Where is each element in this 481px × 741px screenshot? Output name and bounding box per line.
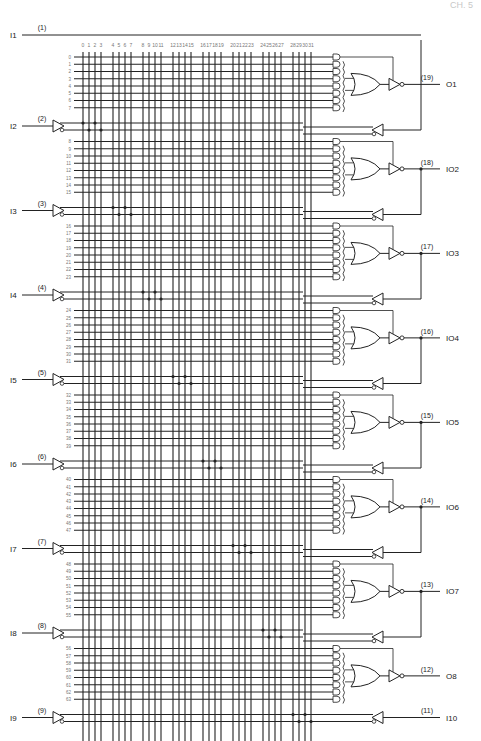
and-gate-icon xyxy=(333,337,340,343)
and-gate-icon xyxy=(333,421,340,427)
and-gate-icon xyxy=(333,520,340,526)
column-label: 0 xyxy=(82,42,85,48)
junction-dot xyxy=(291,713,294,716)
row-label: 39 xyxy=(66,444,72,449)
and-gate-icon xyxy=(333,351,340,357)
and-gate-icon xyxy=(333,308,340,314)
junction-dot xyxy=(249,551,252,554)
column-label: 30 xyxy=(302,42,308,48)
and-gate-icon xyxy=(333,399,340,405)
column-label: 29 xyxy=(296,42,302,48)
pin-number: (3) xyxy=(38,200,47,208)
row-label: 40 xyxy=(66,477,72,482)
pin-number: (7) xyxy=(38,538,47,546)
inversion-bubble-icon xyxy=(60,720,64,724)
or-input-bundle xyxy=(343,399,345,450)
row-label: 9 xyxy=(68,147,71,152)
input-pin-label: I6 xyxy=(10,460,17,469)
row-label: 57 xyxy=(66,654,72,659)
or-input-bundle xyxy=(343,653,345,704)
and-gate-icon xyxy=(333,682,340,688)
and-gate-icon xyxy=(333,252,340,258)
row-label: 61 xyxy=(66,683,72,688)
row-label: 20 xyxy=(66,253,72,258)
and-gate-icon xyxy=(333,223,340,229)
row-label: 18 xyxy=(66,238,72,243)
row-label: 22 xyxy=(66,267,72,272)
row-label: 41 xyxy=(66,485,72,490)
and-gate-icon xyxy=(333,61,340,67)
row-label: 21 xyxy=(66,260,72,265)
and-gate-icon xyxy=(333,414,340,420)
pin-number: (12) xyxy=(421,666,433,674)
pin-number: (6) xyxy=(38,453,47,461)
junction-dot xyxy=(147,297,150,300)
or-input-bundle xyxy=(343,315,345,366)
row-label: 2 xyxy=(68,69,71,74)
pin-number: (4) xyxy=(38,284,47,292)
pin-number: (18) xyxy=(421,159,433,167)
junction-dot xyxy=(159,297,162,300)
row-label: 1 xyxy=(68,62,71,67)
row-label: 44 xyxy=(66,506,72,511)
junction-dot xyxy=(189,382,192,385)
output-buffer-icon xyxy=(389,585,400,597)
junction-dot xyxy=(279,635,282,638)
input-pin-label: I1 xyxy=(10,31,17,40)
row-label: 43 xyxy=(66,499,72,504)
input-pin-label: I5 xyxy=(10,376,17,385)
inversion-bubble-icon xyxy=(400,674,404,678)
inversion-bubble-icon xyxy=(400,589,404,593)
and-gate-icon xyxy=(333,612,340,618)
and-gate-icon xyxy=(333,54,340,60)
row-label: 19 xyxy=(66,246,72,251)
pin-number: (8) xyxy=(38,622,47,630)
or-gate-icon xyxy=(351,496,380,518)
input-pin-label: I10 xyxy=(446,714,458,723)
row-label: 56 xyxy=(66,646,72,651)
column-label: 18 xyxy=(212,42,218,48)
column-label: 15 xyxy=(188,42,194,48)
row-label: 34 xyxy=(66,407,72,412)
junction-dot xyxy=(201,459,204,462)
junction-dot xyxy=(141,290,144,293)
inversion-bubble-icon xyxy=(372,639,376,643)
and-gate-icon xyxy=(333,245,340,251)
junction-dot xyxy=(267,635,270,638)
junction-dot xyxy=(111,206,114,209)
row-label: 59 xyxy=(66,668,72,673)
row-label: 4 xyxy=(68,84,71,89)
junction-dot xyxy=(219,466,222,469)
column-label: 28 xyxy=(290,42,296,48)
row-label: 33 xyxy=(66,400,72,405)
input-pin-label: I8 xyxy=(10,629,17,638)
and-gate-icon xyxy=(333,267,340,273)
or-input-bundle xyxy=(343,484,345,535)
output-buffer-icon xyxy=(389,670,400,682)
and-gate-icon xyxy=(333,407,340,413)
inversion-bubble-icon xyxy=(400,167,404,171)
column-label: 6 xyxy=(124,42,127,48)
and-gate-icon xyxy=(333,477,340,483)
junction-dot xyxy=(171,375,174,378)
inversion-bubble-icon xyxy=(60,635,64,639)
input-pin-label: I2 xyxy=(10,122,17,131)
and-gate-icon xyxy=(333,175,340,181)
column-label: 23 xyxy=(248,42,254,48)
inversion-bubble-icon xyxy=(400,82,404,86)
pin-number: (2) xyxy=(38,115,47,123)
and-gate-icon xyxy=(333,653,340,659)
row-label: 28 xyxy=(66,337,72,342)
column-label: 22 xyxy=(242,42,248,48)
or-gate-icon xyxy=(351,242,380,264)
or-input-bundle xyxy=(343,230,345,281)
inversion-bubble-icon xyxy=(60,551,64,555)
inversion-bubble-icon xyxy=(400,251,404,255)
output-pin-label: O1 xyxy=(446,80,457,89)
row-label: 3 xyxy=(68,77,71,82)
junction-dot xyxy=(231,544,234,547)
and-gate-icon xyxy=(333,329,340,335)
input-pin-label: I9 xyxy=(10,714,17,723)
and-gate-icon xyxy=(333,160,340,166)
pal-logic-diagram: 0123456789101112131415161718192021222324… xyxy=(0,0,481,741)
